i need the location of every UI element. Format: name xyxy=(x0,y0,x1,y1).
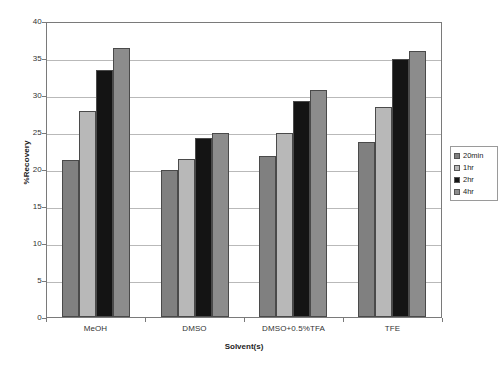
y-tick-label: 10 xyxy=(8,240,42,248)
bar-chart: %Recovery 0510152025303540 MeOHDMSODMSO+… xyxy=(0,0,503,366)
legend-label: 2hr xyxy=(463,176,474,184)
x-tick-label: DMSO+0.5%TFA xyxy=(244,324,343,338)
bar xyxy=(62,160,79,317)
bar xyxy=(358,142,375,317)
bar xyxy=(409,51,426,317)
legend-swatch-icon xyxy=(454,153,460,159)
legend-label: 4hr xyxy=(463,188,474,196)
y-tick-label: 15 xyxy=(8,203,42,211)
bar xyxy=(212,133,229,317)
x-tick-mark xyxy=(343,318,344,322)
bar xyxy=(375,107,392,317)
x-tick-label: TFE xyxy=(343,324,442,338)
y-tick-label: 25 xyxy=(8,129,42,137)
y-tick-label: 30 xyxy=(8,92,42,100)
legend-item: 4hr xyxy=(454,186,494,197)
legend-item: 1hr xyxy=(454,162,494,173)
bar-group xyxy=(47,23,146,317)
x-axis-labels: MeOHDMSODMSO+0.5%TFATFE xyxy=(46,324,442,338)
bar xyxy=(276,133,293,317)
bar xyxy=(293,101,310,317)
plot-area xyxy=(46,22,442,318)
legend-swatch-icon xyxy=(454,189,460,195)
x-tick-label: MeOH xyxy=(46,324,145,338)
bar xyxy=(79,111,96,317)
y-tick-label: 35 xyxy=(8,55,42,63)
x-tick-mark xyxy=(442,318,443,322)
x-tick-mark xyxy=(145,318,146,322)
chart-legend: 20min1hr2hr4hr xyxy=(450,146,498,201)
bar xyxy=(96,70,113,317)
x-tick-mark xyxy=(46,318,47,322)
legend-item: 2hr xyxy=(454,174,494,185)
bar xyxy=(259,156,276,317)
bar-group xyxy=(244,23,343,317)
legend-swatch-icon xyxy=(454,177,460,183)
y-tick-label: 5 xyxy=(8,277,42,285)
bar-group xyxy=(146,23,245,317)
legend-item: 20min xyxy=(454,150,494,161)
bar xyxy=(161,170,178,317)
bar xyxy=(195,138,212,317)
bars-layer xyxy=(47,23,441,317)
legend-label: 1hr xyxy=(463,164,474,172)
bar-group xyxy=(343,23,442,317)
legend-label: 20min xyxy=(463,152,483,160)
x-axis-title: Solvent(s) xyxy=(46,342,442,351)
bar xyxy=(310,90,327,317)
x-tick-label: DMSO xyxy=(145,324,244,338)
legend-swatch-icon xyxy=(454,165,460,171)
y-tick-label: 40 xyxy=(8,18,42,26)
x-tick-mark xyxy=(244,318,245,322)
bar xyxy=(392,59,409,317)
bar xyxy=(113,48,130,317)
y-tick-label: 20 xyxy=(8,166,42,174)
y-tick-label: 0 xyxy=(8,314,42,322)
bar xyxy=(178,159,195,317)
